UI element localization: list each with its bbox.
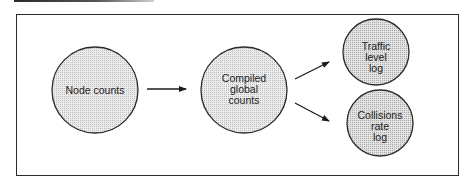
node-label: Node counts [66,84,125,96]
flow-diagram: Node counts Compiled global counts Traff… [0,0,473,184]
node-compiled-global-counts: Compiled global counts [201,47,287,133]
node-traffic-level-log: Traffic level log [343,19,409,85]
node-collisions-rate-log: Collisions rate log [347,90,413,156]
node-node-counts: Node counts [52,47,138,133]
node-label-line-3: log [373,131,387,143]
arrow-compiled-to-collisions-log [295,103,329,121]
node-label-line-3: log [369,62,383,74]
arrow-compiled-to-traffic-log [295,62,329,79]
node-label-line-3: counts [229,94,260,106]
